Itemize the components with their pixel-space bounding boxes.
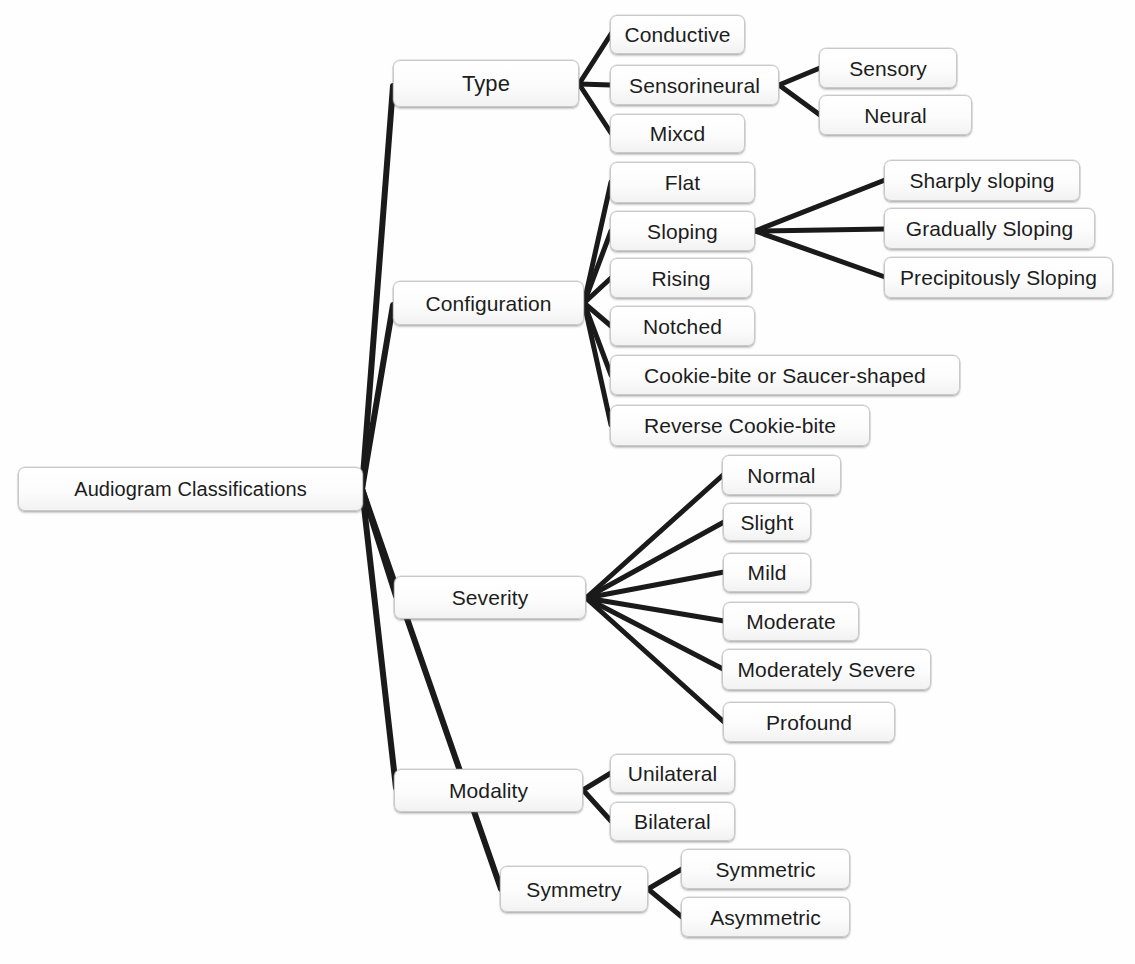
node-label: Audiogram Classifications bbox=[74, 479, 307, 499]
node-label: Flat bbox=[665, 172, 700, 193]
edge-configuration-cookie-bite bbox=[584, 303, 611, 375]
edge-severity-moderately-severe bbox=[586, 598, 723, 669]
node-label: Neural bbox=[864, 105, 926, 126]
node-label: Modality bbox=[449, 780, 528, 801]
node-label: Symmetric bbox=[715, 859, 815, 880]
node-rising[interactable]: Rising bbox=[610, 258, 752, 298]
node-label: Moderate bbox=[746, 611, 836, 632]
edge-configuration-reverse-cookie-bite bbox=[584, 303, 611, 425]
node-label: Unilateral bbox=[628, 763, 718, 784]
node-mixed[interactable]: Mixcd bbox=[610, 114, 745, 153]
node-label: Rising bbox=[652, 268, 711, 289]
edge-root-severity bbox=[362, 489, 396, 596]
node-moderate[interactable]: Moderate bbox=[723, 602, 859, 641]
node-label: Precipitously Sloping bbox=[900, 267, 1097, 288]
node-label: Severity bbox=[452, 587, 529, 608]
edge-symmetry-asymmetric bbox=[648, 889, 682, 917]
edge-severity-mild bbox=[586, 572, 724, 598]
node-flat[interactable]: Flat bbox=[610, 162, 755, 203]
node-normal[interactable]: Normal bbox=[722, 455, 841, 495]
node-unilateral[interactable]: Unilateral bbox=[610, 754, 735, 793]
node-gradually-sloping[interactable]: Gradually Sloping bbox=[884, 208, 1095, 249]
edge-root-type bbox=[362, 86, 393, 489]
node-precipitously-sloping[interactable]: Precipitously Sloping bbox=[884, 257, 1113, 298]
node-label: Gradually Sloping bbox=[906, 218, 1073, 239]
edge-configuration-notched bbox=[584, 303, 611, 326]
edge-sensorineural-sensory bbox=[779, 68, 820, 85]
node-label: Slight bbox=[740, 512, 793, 533]
node-severity[interactable]: Severity bbox=[394, 576, 586, 619]
diagram-canvas: Audiogram Classifications Type Configura… bbox=[0, 0, 1135, 964]
edge-sloping-sharply bbox=[755, 180, 885, 231]
edge-configuration-flat bbox=[584, 182, 611, 303]
node-label: Sloping bbox=[647, 221, 718, 242]
node-notched[interactable]: Notched bbox=[610, 306, 755, 346]
edge-type-conductive bbox=[579, 34, 611, 84]
node-label: Bilateral bbox=[634, 811, 711, 832]
node-label: Symmetry bbox=[526, 879, 621, 900]
node-label: Sensory bbox=[849, 58, 927, 79]
node-moderately-severe[interactable]: Moderately Severe bbox=[722, 649, 931, 690]
edge-severity-normal bbox=[586, 475, 723, 598]
node-audiogram-classifications[interactable]: Audiogram Classifications bbox=[18, 467, 363, 511]
node-label: Profound bbox=[766, 712, 852, 733]
node-label: Configuration bbox=[425, 293, 551, 314]
node-slight[interactable]: Slight bbox=[723, 503, 811, 541]
node-label: Reverse Cookie-bite bbox=[644, 415, 836, 436]
node-type[interactable]: Type bbox=[393, 60, 579, 107]
node-sensorineural[interactable]: Sensorineural bbox=[610, 65, 779, 105]
node-reverse-cookie-bite[interactable]: Reverse Cookie-bite bbox=[610, 405, 870, 446]
edge-type-mixed bbox=[579, 84, 611, 133]
node-label: Type bbox=[462, 73, 510, 95]
edge-sensorineural-neural bbox=[779, 85, 820, 115]
edge-configuration-sloping bbox=[584, 231, 611, 303]
edge-sloping-gradually bbox=[755, 229, 885, 231]
node-bilateral[interactable]: Bilateral bbox=[610, 802, 735, 841]
node-modality[interactable]: Modality bbox=[394, 769, 583, 812]
node-label: Notched bbox=[643, 316, 722, 337]
edge-sloping-precipitously bbox=[755, 231, 885, 277]
node-symmetry[interactable]: Symmetry bbox=[500, 866, 648, 912]
node-conductive[interactable]: Conductive bbox=[610, 15, 745, 54]
edge-modality-bilateral bbox=[583, 790, 611, 821]
node-sensory[interactable]: Sensory bbox=[819, 48, 957, 88]
edge-root-symmetry bbox=[362, 489, 501, 889]
node-label: Moderately Severe bbox=[738, 659, 916, 680]
edge-severity-profound bbox=[586, 598, 724, 722]
edge-severity-moderate bbox=[586, 598, 724, 621]
node-symmetric[interactable]: Symmetric bbox=[681, 849, 850, 889]
node-label: Sharply sloping bbox=[909, 170, 1054, 191]
node-configuration[interactable]: Configuration bbox=[393, 281, 584, 325]
node-label: Cookie-bite or Saucer-shaped bbox=[644, 365, 926, 386]
node-neural[interactable]: Neural bbox=[819, 95, 972, 135]
node-cookie-bite-or-saucer-shaped[interactable]: Cookie-bite or Saucer-shaped bbox=[610, 355, 960, 395]
node-sloping[interactable]: Sloping bbox=[610, 211, 755, 251]
node-profound[interactable]: Profound bbox=[723, 702, 895, 742]
node-sharply-sloping[interactable]: Sharply sloping bbox=[884, 160, 1080, 201]
node-label: Sensorineural bbox=[629, 75, 760, 96]
edge-symmetry-symmetric bbox=[648, 869, 682, 889]
node-label: Mild bbox=[748, 562, 787, 583]
node-asymmetric[interactable]: Asymmetric bbox=[681, 897, 850, 937]
node-label: Normal bbox=[747, 465, 815, 486]
edge-type-sensorineural bbox=[579, 84, 611, 85]
edge-root-configuration bbox=[362, 305, 393, 489]
node-label: Mixcd bbox=[650, 123, 705, 144]
edge-modality-unilateral bbox=[583, 773, 611, 790]
node-label: Conductive bbox=[624, 24, 730, 45]
edge-severity-slight bbox=[586, 522, 724, 598]
edge-root-modality bbox=[362, 489, 396, 788]
node-label: Asymmetric bbox=[710, 907, 821, 928]
node-mild[interactable]: Mild bbox=[723, 553, 811, 592]
edge-configuration-rising bbox=[584, 278, 611, 303]
